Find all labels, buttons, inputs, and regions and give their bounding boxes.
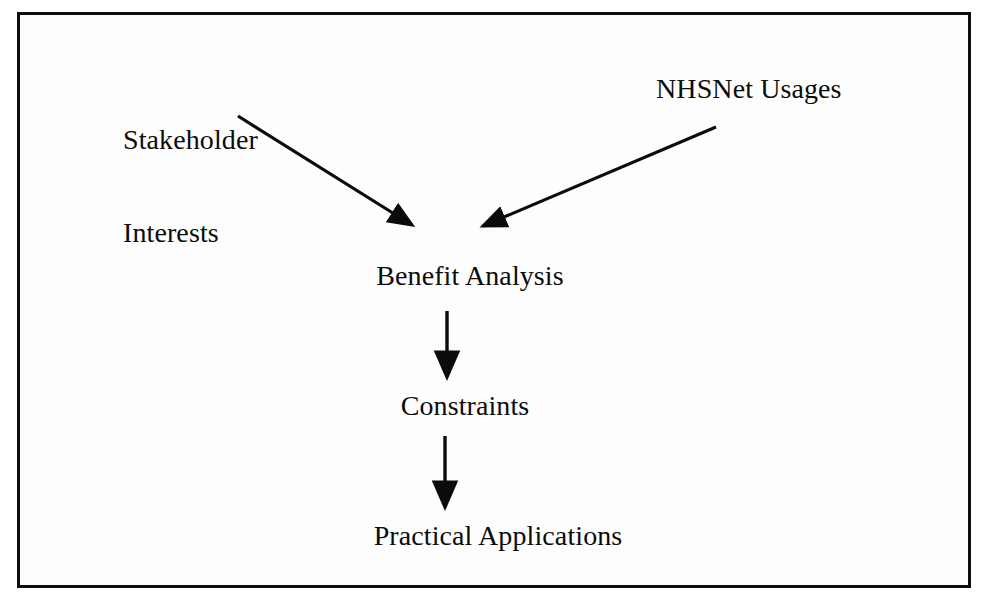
figure-frame-border: Stakeholder Interests NHSNet Usages Bene… <box>17 12 971 588</box>
scan-artifact-top-text <box>0 0 986 9</box>
node-practical-applications: Practical Applications <box>374 520 623 551</box>
node-constraints: Constraints <box>401 390 530 421</box>
figure-page: Stakeholder Interests NHSNet Usages Bene… <box>0 0 986 599</box>
node-stakeholder-interests-line1: Stakeholder <box>123 124 258 155</box>
node-benefit-analysis: Benefit Analysis <box>376 260 563 291</box>
node-stakeholder-interests: Stakeholder Interests <box>123 62 258 310</box>
node-nhsnet-usages: NHSNet Usages <box>656 73 842 104</box>
node-stakeholder-interests-line2: Interests <box>123 217 258 248</box>
